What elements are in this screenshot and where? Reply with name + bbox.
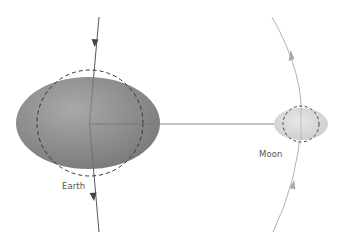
arrow-down-icon bbox=[92, 39, 99, 47]
earth-label: Earth bbox=[62, 181, 85, 191]
tidal-bulge-diagram: Earth Moon bbox=[0, 0, 345, 246]
moon-label: Moon bbox=[259, 149, 283, 159]
earth-ellipse bbox=[16, 77, 160, 169]
arrow-up-icon bbox=[289, 180, 295, 190]
diagram-canvas bbox=[0, 0, 345, 246]
arrow-up-icon bbox=[289, 50, 295, 61]
